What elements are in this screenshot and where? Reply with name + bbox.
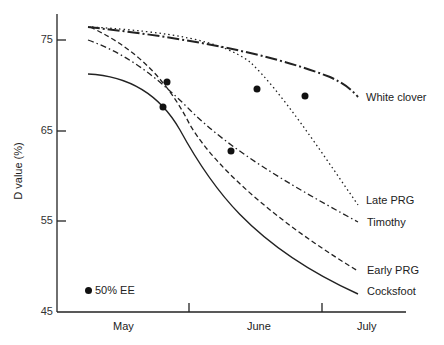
legend-label: 50% EE: [95, 284, 135, 296]
ee-marker-cocksfoot: [160, 104, 167, 111]
ee-marker-timothy: [228, 148, 235, 155]
label-late-prg: Late PRG: [366, 194, 414, 206]
y-tick-55: 55: [27, 214, 53, 226]
ee-marker-white-clover: [302, 93, 309, 100]
y-axis-label: D value (%): [12, 131, 24, 211]
x-tick-june: June: [247, 320, 271, 332]
series-late-prg: [92, 27, 358, 205]
label-timothy: Timothy: [367, 216, 406, 228]
y-tick-65: 65: [27, 124, 53, 136]
ee-marker-legend-icon: [85, 287, 92, 294]
y-tick-75: 75: [27, 33, 53, 45]
label-cocksfoot: Cocksfoot: [367, 285, 416, 297]
x-tick-may: May: [113, 320, 134, 332]
ee-marker-early-prg: [164, 79, 171, 86]
y-tick-45: 45: [27, 305, 53, 317]
label-early-prg: Early PRG: [367, 264, 419, 276]
legend: 50% EE: [85, 284, 135, 296]
series-early-prg: [90, 27, 358, 271]
series-white-clover: [88, 27, 358, 97]
ee-marker-late-prg: [254, 86, 261, 93]
series-cocksfoot: [88, 74, 358, 294]
label-white-clover: White clover: [366, 91, 427, 103]
x-tick-july: July: [357, 320, 377, 332]
